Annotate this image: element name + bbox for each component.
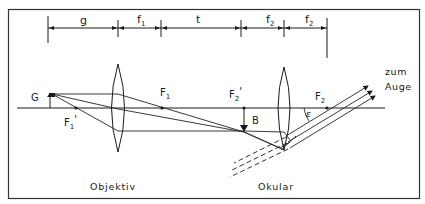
exit-ray-1 xyxy=(286,86,368,136)
virtual-ray-3 xyxy=(230,149,288,177)
virtual-ray-2 xyxy=(232,143,287,170)
focal-point-F1prime xyxy=(74,106,77,109)
label-f1: f1 xyxy=(137,13,145,28)
focal-point-F1 xyxy=(160,106,163,109)
label-to-eye-line1: zum xyxy=(385,66,407,77)
point-label-F2: F2 xyxy=(315,91,325,105)
dimension-bar: g f1 t f2 f2 xyxy=(48,13,327,58)
point-label-F1: F1 xyxy=(160,87,170,101)
point-label-F2prime: F2' xyxy=(229,86,242,103)
point-label-F1prime: F1' xyxy=(64,114,77,131)
exit-ray-2 xyxy=(288,91,372,142)
label-t: t xyxy=(196,13,201,26)
focal-point-F2 xyxy=(325,106,328,109)
ray-through-center xyxy=(52,94,244,132)
point-label-G: G xyxy=(31,92,39,103)
ray-through-F1prime xyxy=(52,94,244,131)
label-g: g xyxy=(80,14,87,27)
label-f2-first: f2 xyxy=(266,13,274,28)
angle-label-epsilon: ε xyxy=(306,109,311,119)
label-objective: Objektiv xyxy=(90,181,136,192)
microscope-ray-diagram: g f1 t f2 f2 G F1' F1 F2' F2 B ε Obje xyxy=(0,0,425,204)
label-f2-second: f2 xyxy=(305,13,313,28)
exit-ray-3 xyxy=(290,96,375,148)
virtual-ray-1 xyxy=(234,137,286,163)
point-label-B: B xyxy=(252,115,259,126)
label-eyepiece: Okular xyxy=(258,181,294,192)
label-to-eye-line2: Auge xyxy=(385,81,412,92)
